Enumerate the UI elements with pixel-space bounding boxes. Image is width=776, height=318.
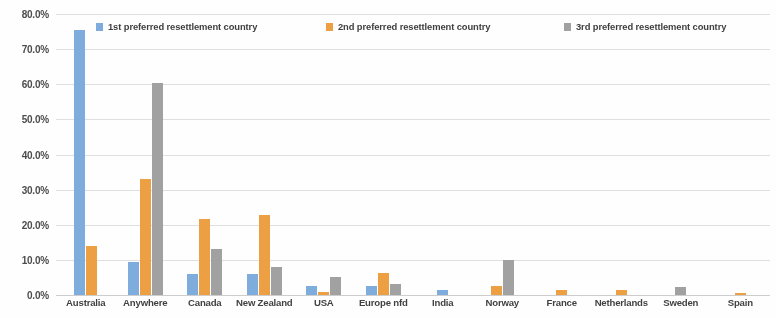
bar[interactable] bbox=[330, 277, 341, 295]
x-axis-category-label: Spain bbox=[711, 297, 771, 308]
y-axis-tick-label: 40.0% bbox=[22, 149, 49, 160]
bar[interactable] bbox=[556, 290, 567, 295]
bar[interactable] bbox=[247, 274, 258, 295]
y-axis-tick-label: 20.0% bbox=[22, 219, 49, 230]
bar-groups bbox=[56, 14, 770, 295]
bar-stack bbox=[235, 14, 295, 295]
bar-group bbox=[592, 14, 652, 295]
bar[interactable] bbox=[390, 284, 401, 295]
x-axis-line: 0.0% bbox=[56, 295, 770, 296]
bar[interactable] bbox=[259, 215, 270, 295]
bar-group bbox=[651, 14, 711, 295]
y-axis-tick-label: 30.0% bbox=[22, 184, 49, 195]
plot-area: 0.0%10.0%20.0%30.0%40.0%50.0%60.0%70.0%8… bbox=[56, 14, 770, 295]
bar[interactable] bbox=[616, 290, 627, 295]
x-axis-labels: AustraliaAnywhereCanadaNew ZealandUSAEur… bbox=[56, 297, 770, 308]
x-axis-category-label: Australia bbox=[56, 297, 116, 308]
bar[interactable] bbox=[437, 290, 448, 295]
bar[interactable] bbox=[86, 246, 97, 295]
bar-stack bbox=[116, 14, 176, 295]
bar-chart: 1st preferred resettlement country2nd pr… bbox=[0, 0, 776, 318]
bar-group bbox=[711, 14, 771, 295]
bar[interactable] bbox=[140, 179, 151, 295]
bar-stack bbox=[651, 14, 711, 295]
bar-stack bbox=[711, 14, 771, 295]
x-axis-category-label: Norway bbox=[473, 297, 533, 308]
bar[interactable] bbox=[503, 260, 514, 295]
bar-stack bbox=[473, 14, 533, 295]
bar-group bbox=[116, 14, 176, 295]
y-axis-tick-label: 60.0% bbox=[22, 79, 49, 90]
bar-group bbox=[413, 14, 473, 295]
bar-stack bbox=[592, 14, 652, 295]
bar[interactable] bbox=[675, 287, 686, 295]
bar-stack bbox=[354, 14, 414, 295]
bar-group bbox=[294, 14, 354, 295]
x-axis-category-label: Sweden bbox=[651, 297, 711, 308]
bar[interactable] bbox=[735, 293, 746, 295]
bar-group bbox=[56, 14, 116, 295]
bar[interactable] bbox=[366, 286, 377, 295]
bar-group bbox=[235, 14, 295, 295]
x-axis-category-label: Europe nfd bbox=[354, 297, 414, 308]
y-axis-tick-label: 80.0% bbox=[22, 9, 49, 20]
bar-group bbox=[175, 14, 235, 295]
bar[interactable] bbox=[318, 292, 329, 296]
bar[interactable] bbox=[211, 249, 222, 295]
bar-group bbox=[473, 14, 533, 295]
bar-stack bbox=[532, 14, 592, 295]
bar[interactable] bbox=[152, 83, 163, 296]
x-axis-category-label: India bbox=[413, 297, 473, 308]
x-axis-category-label: New Zealand bbox=[235, 297, 295, 308]
x-axis-category-label: Anywhere bbox=[116, 297, 176, 308]
bar-stack bbox=[413, 14, 473, 295]
bar[interactable] bbox=[187, 274, 198, 295]
bar[interactable] bbox=[199, 219, 210, 295]
bar[interactable] bbox=[378, 273, 389, 295]
bar[interactable] bbox=[271, 267, 282, 295]
bar[interactable] bbox=[306, 286, 317, 295]
y-axis-tick-label: 50.0% bbox=[22, 114, 49, 125]
bar-group bbox=[532, 14, 592, 295]
x-axis-category-label: Netherlands bbox=[592, 297, 652, 308]
bar-stack bbox=[175, 14, 235, 295]
bar-stack bbox=[294, 14, 354, 295]
y-axis-tick-label: 70.0% bbox=[22, 44, 49, 55]
x-axis-category-label: Canada bbox=[175, 297, 235, 308]
x-axis-category-label: France bbox=[532, 297, 592, 308]
bar-stack bbox=[56, 14, 116, 295]
bar[interactable] bbox=[491, 286, 502, 295]
y-axis-tick-label: 10.0% bbox=[22, 254, 49, 265]
x-axis-category-label: USA bbox=[294, 297, 354, 308]
bar[interactable] bbox=[128, 262, 139, 295]
bar-group bbox=[354, 14, 414, 295]
y-axis-tick-label: 0.0% bbox=[27, 290, 49, 301]
bar[interactable] bbox=[74, 30, 85, 295]
